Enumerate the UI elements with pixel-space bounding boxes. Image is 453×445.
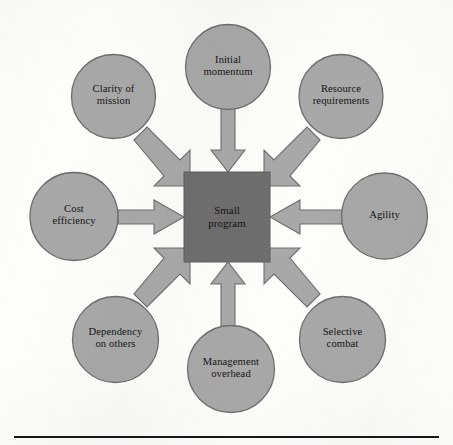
arrow-dependency-on-others	[134, 248, 190, 307]
node-circle-agility	[342, 173, 428, 259]
arrow-clarity-of-mission	[134, 127, 190, 186]
arrow-selective-combat	[264, 248, 320, 307]
center-node-square	[184, 172, 270, 262]
arrow-management-overhead	[211, 262, 245, 330]
node-circle-selective-combat	[300, 297, 386, 383]
node-circle-clarity-of-mission	[72, 55, 156, 139]
arrow-initial-momentum	[211, 108, 245, 172]
page-horizontal-rule	[14, 436, 439, 438]
arrow-agility	[270, 200, 342, 234]
node-circle-initial-momentum	[186, 25, 271, 110]
node-circle-dependency-on-others	[73, 297, 159, 383]
arrow-resource-requirements	[264, 127, 320, 186]
hub-and-spoke-diagram	[0, 0, 453, 445]
node-circle-resource-requirements	[299, 55, 383, 139]
figure-page: Clarity of mission Initial momentum Reso…	[0, 0, 453, 445]
node-circle-cost-efficiency	[30, 173, 118, 261]
arrow-cost-efficiency	[118, 200, 184, 234]
node-circle-management-overhead	[188, 326, 275, 413]
